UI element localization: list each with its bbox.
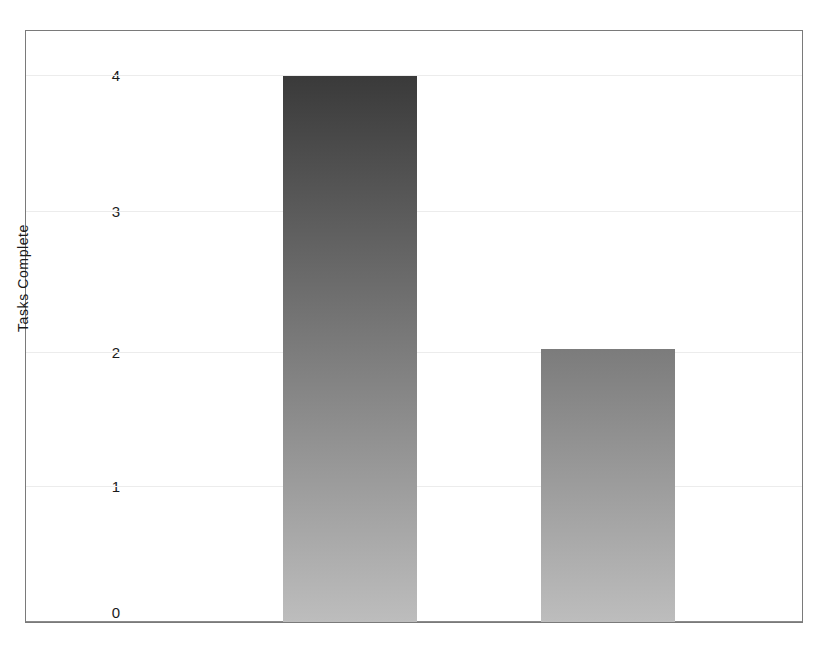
chart-title [0,0,834,3]
bar-chart: Tasks Complete 4 3 2 1 0 [0,0,834,659]
bar-series-2[interactable] [541,349,675,622]
plot-area [26,31,802,622]
bar-series-1[interactable] [283,76,417,622]
